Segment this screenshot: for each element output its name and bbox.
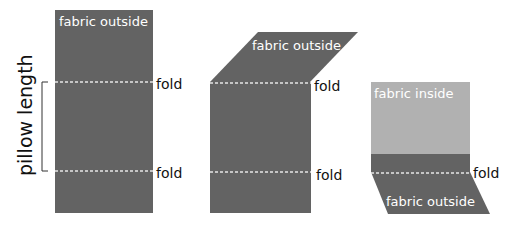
fabric-inside-label: fabric inside [374,86,454,101]
fabric-outside-rect [55,10,153,213]
fabric-outside-label: fabric outside [252,38,341,53]
fold-label: fold [314,78,340,94]
bracket [42,82,48,171]
pillow-length-dimension: pillow length [14,54,48,176]
fold-label: fold [473,165,499,181]
fold-label: fold [316,167,342,183]
fold-label: fold [156,76,182,92]
panel-3: fabric inside fold fabric outside [371,82,499,214]
panel-1: fabric outside fold fold [55,10,182,213]
fabric-outside-rect [210,82,311,213]
pillow-fold-diagram: fabric outside fold fold pillow length f… [0,0,519,226]
fold-label: fold [156,165,182,181]
fabric-outside-label: fabric outside [59,14,148,29]
fabric-outside-label: fabric outside [386,194,475,209]
pillow-length-label: pillow length [14,54,36,176]
fabric-outside-band [371,154,470,172]
panel-2: fabric outside fold fold [210,32,358,213]
